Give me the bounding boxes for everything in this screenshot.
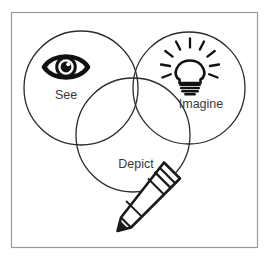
circle-label-imagine: Imagine bbox=[179, 97, 224, 111]
venn-diagram-canvas: See Imagine Depict bbox=[0, 0, 268, 262]
circle-label-depict: Depict bbox=[118, 157, 154, 171]
venn-diagram-figure: See Imagine Depict bbox=[0, 0, 268, 262]
circle-label-see: See bbox=[55, 88, 77, 102]
